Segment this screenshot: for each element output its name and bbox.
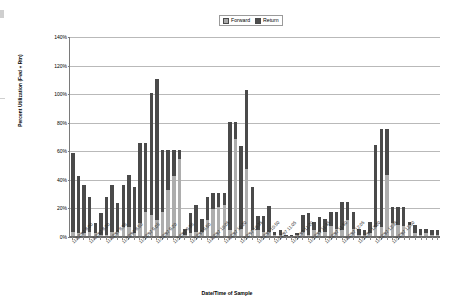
y-axis-tick-label: 0% [60, 234, 67, 240]
bar-segment-return [245, 90, 248, 169]
legend-entry-return: Return [255, 17, 279, 24]
stacked-bar[interactable] [144, 143, 147, 236]
bar-segment-forward [234, 139, 237, 236]
stacked-bar[interactable] [178, 150, 181, 236]
bar-segment-return [71, 153, 74, 232]
bar-segment-return [127, 175, 130, 228]
bar-segment-return [290, 235, 293, 236]
y-axis-tick-label: 120% [54, 63, 67, 69]
plot-area: 0%20%40%60%80%100%120%140% [69, 37, 440, 237]
y-axis-tick-label: 80% [57, 120, 67, 126]
bar-segment-return [150, 93, 153, 214]
bar-segment-return [144, 143, 147, 212]
bar-segment-return [374, 145, 377, 228]
x-axis-title: Date/Time of Sample [0, 290, 454, 296]
y-axis-tick-label: 60% [57, 148, 67, 154]
x-axis-tick-labels: 11/12/97 8:0011/12/97 8:2011/12/97 8:351… [69, 241, 440, 287]
y-axis-tick-label: 20% [57, 205, 67, 211]
bar-segment-forward [105, 235, 108, 236]
bar-segment-forward [323, 232, 326, 236]
stacked-bar[interactable] [413, 225, 416, 236]
bar-segment-return [385, 129, 388, 175]
bar-segment-return [223, 193, 226, 204]
bar-segment-forward [71, 232, 74, 236]
bar-segment-return [77, 176, 80, 233]
bar-segment-return [161, 150, 164, 211]
bar-segment-forward [189, 233, 192, 236]
stacked-bar[interactable] [110, 185, 113, 236]
bar-segment-forward [413, 233, 416, 236]
bar-segment-forward [273, 235, 276, 236]
bar-segment-forward [430, 235, 433, 236]
stacked-bar[interactable] [290, 235, 293, 236]
y-axis-title: Percent Utilization (Fwd + Rtn) [18, 31, 23, 151]
bar-segment-return [346, 202, 349, 221]
bar-segment-return [206, 197, 209, 220]
chart-container: Forward Return Percent Utilization (Fwd … [0, 0, 454, 308]
bar-segment-forward [256, 230, 259, 236]
bar-segment-return [380, 129, 383, 228]
bar-segment-return [251, 187, 254, 230]
bar-segment-return [178, 150, 181, 159]
bar-segment-forward [178, 159, 181, 236]
legend-label-return: Return [263, 17, 279, 24]
bar-segment-return [155, 79, 158, 220]
stacked-bar[interactable] [127, 175, 130, 236]
legend-swatch-return-icon [255, 18, 261, 24]
stacked-bar[interactable] [166, 150, 169, 236]
legend-label-forward: Forward [231, 17, 250, 24]
chart-legend: Forward Return [219, 15, 283, 26]
stacked-bar[interactable] [161, 150, 164, 236]
x-axis-tick-mark [435, 237, 441, 240]
y-axis-tick-label: 40% [57, 177, 67, 183]
bar-segment-return [194, 205, 197, 232]
stacked-bar[interactable] [234, 122, 237, 236]
bar-segment-return [217, 193, 220, 207]
bar-segment-forward [357, 235, 360, 236]
stacked-bar[interactable] [273, 232, 276, 236]
bar-segment-return [211, 193, 214, 209]
stacked-bar[interactable] [71, 153, 74, 236]
bar-segment-forward [307, 235, 310, 236]
edge-artifact-mid [0, 98, 5, 99]
stacked-bar[interactable] [346, 202, 349, 236]
bar-segment-return [234, 122, 237, 139]
bar-segment-return [413, 225, 416, 234]
bar-slot [435, 37, 441, 236]
stacked-bar[interactable] [424, 229, 427, 236]
bar-segment-forward [88, 232, 91, 236]
bar-segment-return [228, 122, 231, 231]
bar-segment-forward [419, 235, 422, 236]
stacked-bar[interactable] [155, 79, 158, 236]
bar-segment-forward [245, 169, 248, 236]
bar-segment-return [166, 150, 169, 190]
stacked-bar[interactable] [228, 122, 231, 236]
stacked-bar[interactable] [430, 230, 433, 236]
stacked-bar[interactable] [380, 129, 383, 236]
bars-group [70, 37, 440, 236]
stacked-bar[interactable] [150, 93, 153, 236]
bar-segment-return [239, 146, 242, 229]
stacked-bar[interactable] [245, 90, 248, 236]
stacked-bar[interactable] [385, 129, 388, 236]
bar-segment-forward [424, 233, 427, 236]
stacked-bar[interactable] [211, 193, 214, 236]
stacked-bar[interactable] [77, 176, 80, 236]
edge-artifact-top [0, 10, 4, 18]
bar-segment-return [172, 150, 175, 176]
bar-segment-return [402, 207, 405, 226]
y-axis-tick-label: 140% [54, 34, 67, 40]
stacked-bar[interactable] [436, 230, 439, 236]
bar-segment-return [138, 143, 141, 223]
y-axis-tick-label: 100% [54, 91, 67, 97]
stacked-bar[interactable] [419, 229, 422, 236]
legend-entry-forward: Forward [223, 17, 250, 24]
legend-swatch-forward-icon [223, 18, 229, 24]
bar-segment-forward [436, 235, 439, 236]
